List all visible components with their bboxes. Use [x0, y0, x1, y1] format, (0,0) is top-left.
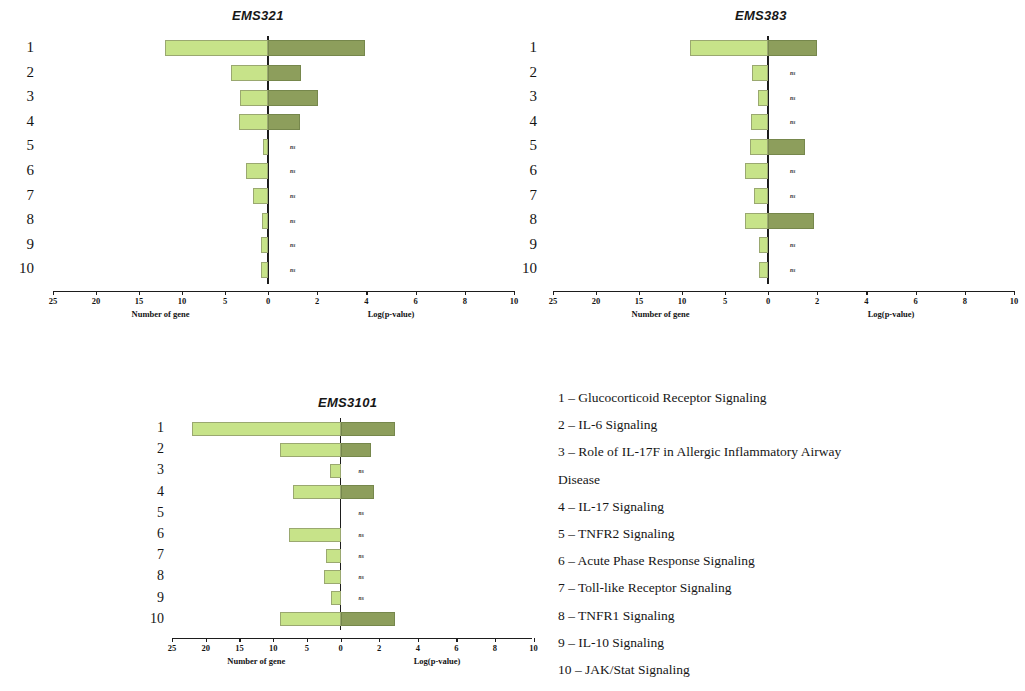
- axis-tick: [465, 291, 466, 295]
- plot-area: nsnsnsnsnsnsns: [553, 36, 1015, 284]
- bar-gene-count: [331, 591, 340, 605]
- bar-gene-count: [280, 612, 341, 626]
- axis-tick: [639, 291, 640, 295]
- bar-log-pvalue: [341, 612, 395, 626]
- plot-area: nsnsnsnsnsns: [53, 36, 515, 284]
- axis-tick-label-genes: 25: [168, 643, 177, 653]
- axis-tick: [53, 291, 54, 295]
- bar-gene-count: [253, 188, 268, 204]
- bar-gene-count: [745, 163, 768, 179]
- row-label: 3: [157, 463, 164, 477]
- row-label: 1: [530, 40, 538, 55]
- bar-gene-count: [289, 528, 340, 542]
- axis-tick: [341, 638, 342, 642]
- axis-tick: [379, 638, 380, 642]
- axis-tick-label-pvalue: 10: [1010, 296, 1019, 306]
- axis-caption-log-pvalue: Log(p-value): [868, 309, 915, 319]
- ns-marker: ns: [359, 595, 365, 601]
- ns-marker: ns: [790, 267, 796, 273]
- bar-log-pvalue: [268, 65, 301, 81]
- bar-gene-count: [751, 114, 768, 130]
- axis-line: [53, 291, 515, 292]
- bar-gene-count: [690, 40, 768, 56]
- ns-marker: ns: [290, 144, 296, 150]
- axis-tick-label-pvalue: 8: [463, 296, 467, 306]
- ns-marker: ns: [290, 242, 296, 248]
- axis-tick: [866, 291, 867, 295]
- bar-gene-count: [324, 570, 340, 584]
- bar-log-pvalue: [768, 139, 805, 155]
- row-label: 5: [530, 138, 538, 153]
- ns-marker: ns: [290, 193, 296, 199]
- ns-marker: ns: [790, 168, 796, 174]
- legend-item: 1 – Glucocorticoid Receptor Signaling: [558, 390, 766, 406]
- bar-gene-count: [239, 114, 268, 130]
- bar-gene-count: [754, 188, 768, 204]
- chart-panel-ems383: EMS383 12345678910 nsnsnsnsnsnsns 252015…: [495, 0, 1025, 330]
- row-label: 6: [27, 163, 35, 178]
- axis-tick: [268, 291, 269, 295]
- axis-tick-label-pvalue: 4: [864, 296, 868, 306]
- axis-tick: [553, 291, 554, 295]
- row-label: 10: [150, 612, 164, 626]
- bar-gene-count: [330, 464, 341, 478]
- row-label: 2: [530, 65, 538, 80]
- axis-tick-label-pvalue: 6: [454, 643, 458, 653]
- pathway-legend: 1 – Glucocorticoid Receptor Signaling2 –…: [558, 390, 1018, 690]
- row-label: 8: [157, 569, 164, 583]
- ns-marker: ns: [790, 95, 796, 101]
- axis-tick-label-genes: 15: [635, 296, 644, 306]
- axis-tick: [495, 638, 496, 642]
- legend-item: 6 – Acute Phase Response Signaling: [558, 553, 755, 569]
- axis-tick-label-genes: 10: [678, 296, 687, 306]
- bar-log-pvalue: [341, 485, 375, 499]
- bar-gene-count: [758, 90, 768, 106]
- bar-log-pvalue: [341, 443, 372, 457]
- axis-tick: [182, 291, 183, 295]
- bar-gene-count: [192, 422, 340, 436]
- axis-tick: [172, 638, 173, 642]
- bar-gene-count: [246, 163, 268, 179]
- axis-tick: [534, 638, 535, 642]
- axis-tick-label-genes: 20: [592, 296, 601, 306]
- row-label: 2: [27, 65, 35, 80]
- ns-marker: ns: [790, 242, 796, 248]
- axis-tick-label-genes: 0: [266, 296, 270, 306]
- legend-item: 8 – TNFR1 Signaling: [558, 608, 674, 624]
- bar-gene-count: [750, 139, 768, 155]
- axis-tick-label-pvalue: 4: [364, 296, 368, 306]
- axis-tick-label-genes: 5: [305, 643, 309, 653]
- axis-tick: [725, 291, 726, 295]
- axis-tick-label-pvalue: 2: [815, 296, 819, 306]
- axis-tick: [307, 638, 308, 642]
- chart-panel-ems321: EMS321 12345678910 nsnsnsnsnsns 25201510…: [0, 0, 525, 330]
- axis-tick-label-pvalue: 4: [416, 643, 420, 653]
- ns-marker: ns: [290, 218, 296, 224]
- row-label-column: 12345678910: [130, 418, 164, 632]
- axis-tick: [206, 638, 207, 642]
- row-label: 9: [530, 237, 538, 252]
- row-label: 7: [530, 188, 538, 203]
- bar-log-pvalue: [268, 114, 300, 130]
- legend-item: 4 – IL-17 Signaling: [558, 499, 664, 515]
- ns-marker: ns: [790, 70, 796, 76]
- bar-log-pvalue: [768, 40, 817, 56]
- ns-marker: ns: [290, 267, 296, 273]
- legend-item: 5 – TNFR2 Signaling: [558, 526, 674, 542]
- axis-tick-label-pvalue: 10: [529, 643, 538, 653]
- axis-tick-label-genes: 25: [49, 296, 58, 306]
- row-label: 5: [27, 138, 35, 153]
- plot-area: nsnsnsnsnsns: [172, 418, 532, 630]
- bar-gene-count: [231, 65, 268, 81]
- row-label-column: 12345678910: [0, 36, 34, 286]
- row-label: 6: [530, 163, 538, 178]
- axis-line: [172, 638, 532, 639]
- axis-caption-number-of-gene: Number of gene: [227, 656, 285, 666]
- bar-gene-count: [759, 262, 768, 278]
- ns-marker: ns: [359, 553, 365, 559]
- ns-marker: ns: [359, 574, 365, 580]
- axis-tick: [317, 291, 318, 295]
- row-label: 1: [27, 40, 35, 55]
- row-label: 10: [522, 261, 537, 276]
- axis-tick-label-genes: 10: [178, 296, 187, 306]
